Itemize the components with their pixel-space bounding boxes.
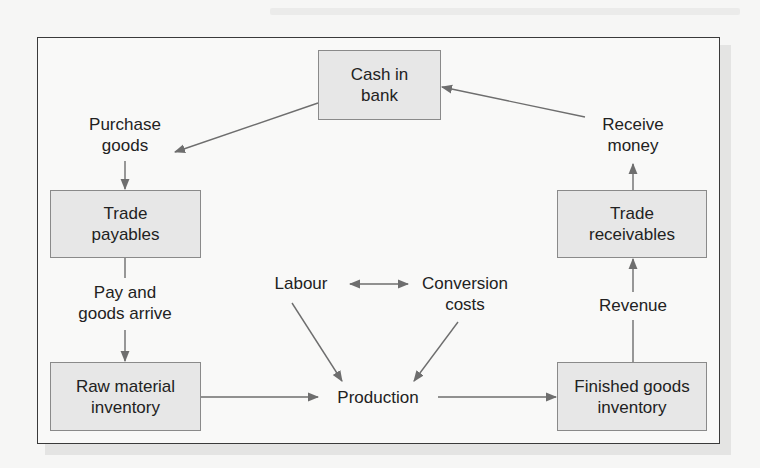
node-label-line2: goods arrive xyxy=(55,303,195,324)
node-labour: Labour xyxy=(258,273,344,294)
node-label-line2: bank xyxy=(351,85,409,106)
node-production: Production xyxy=(320,387,436,408)
arrow-conversion-to-production xyxy=(414,322,458,381)
node-label-line2: inventory xyxy=(76,397,175,418)
node-label-line2: money xyxy=(583,135,683,156)
arrow-labour-to-production xyxy=(292,303,342,381)
node-label-line1: Revenue xyxy=(583,295,683,316)
node-conversion-costs: Conversion costs xyxy=(410,273,520,315)
node-label-line1: Raw material xyxy=(76,376,175,397)
node-finished-goods-inventory: Finished goods inventory xyxy=(557,362,707,431)
node-raw-material-inventory: Raw material inventory xyxy=(50,362,201,431)
node-revenue: Revenue xyxy=(583,295,683,316)
node-cash-in-bank: Cash in bank xyxy=(318,50,441,120)
node-label-line1: Finished goods xyxy=(574,376,689,397)
arrow-cash-to-purchase xyxy=(175,103,318,152)
node-label-line1: Trade xyxy=(91,203,159,224)
node-purchase-goods: Purchase goods xyxy=(70,114,180,156)
node-label-line1: Trade xyxy=(589,203,675,224)
node-trade-receivables: Trade receivables xyxy=(557,190,707,258)
node-receive-money: Receive money xyxy=(583,114,683,156)
node-label-line2: costs xyxy=(410,294,520,315)
node-label-line1: Receive xyxy=(583,114,683,135)
arrow-receive-to-cash xyxy=(442,87,585,117)
node-label-line2: payables xyxy=(91,224,159,245)
node-label-line1: Labour xyxy=(258,273,344,294)
node-label-line2: goods xyxy=(70,135,180,156)
node-pay-and-goods-arrive: Pay and goods arrive xyxy=(55,282,195,324)
node-label-line1: Production xyxy=(320,387,436,408)
node-label-line1: Pay and xyxy=(55,282,195,303)
node-label-line1: Cash in xyxy=(351,64,409,85)
node-label-line2: receivables xyxy=(589,224,675,245)
node-label-line1: Conversion xyxy=(410,273,520,294)
node-label-line2: inventory xyxy=(574,397,689,418)
node-trade-payables: Trade payables xyxy=(50,190,201,258)
node-label-line1: Purchase xyxy=(70,114,180,135)
